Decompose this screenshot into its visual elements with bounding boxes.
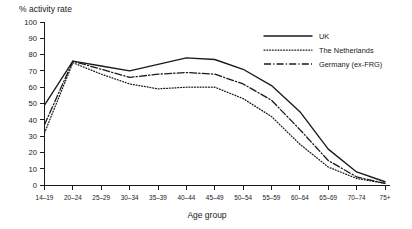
x-tick-label: 60–64 (291, 194, 309, 201)
x-axis-title: Age group (187, 210, 226, 220)
legend-label: The Netherlands (319, 46, 374, 55)
x-tick-group: 14–1920–2425–2930–3435–3940–4445–4950–54… (36, 186, 391, 202)
y-tick-label: 0 (33, 181, 37, 190)
y-tick-group: 0102030405060708090100 (24, 18, 44, 190)
y-axis: 0102030405060708090100 (24, 18, 44, 190)
x-tick-label: 35–39 (149, 194, 167, 201)
x-tick-label: 75+ (380, 194, 391, 201)
x-tick-label: 40–44 (177, 194, 195, 201)
y-tick-label: 90 (29, 34, 37, 43)
activity-rate-line-chart: % activity rate 0102030405060708090100 1… (0, 0, 412, 229)
y-tick-label: 100 (24, 18, 37, 27)
y-tick-label: 80 (29, 50, 37, 59)
x-tick-label: 45–49 (206, 194, 224, 201)
y-tick-label: 10 (29, 165, 37, 174)
y-tick-label: 50 (29, 99, 37, 108)
y-tick-label: 30 (29, 132, 37, 141)
x-tick-label: 20–24 (64, 194, 82, 201)
y-tick-label: 70 (29, 67, 37, 76)
y-tick-label: 60 (29, 83, 37, 92)
chart-title: % activity rate (19, 4, 72, 14)
x-tick-label: 50–54 (234, 194, 252, 201)
y-tick-label: 40 (29, 116, 37, 125)
series-group (45, 58, 386, 184)
x-tick-label: 55–59 (263, 194, 281, 201)
series-line-germany-ex-frg (45, 61, 386, 183)
x-tick-label: 14–19 (36, 194, 54, 201)
x-tick-label: 70–74 (348, 194, 366, 201)
legend-label: Germany (ex-FRG) (319, 60, 382, 69)
x-tick-label: 30–34 (121, 194, 139, 201)
chart-legend: UKThe NetherlandsGermany (ex-FRG) (264, 32, 382, 69)
legend-label: UK (319, 32, 329, 41)
x-tick-label: 65–69 (319, 194, 337, 201)
y-tick-label: 20 (29, 148, 37, 157)
x-tick-label: 25–29 (92, 194, 110, 201)
series-line-the-netherlands (45, 63, 386, 184)
x-axis: 14–1920–2425–2930–3435–3940–4445–4950–54… (36, 186, 391, 221)
